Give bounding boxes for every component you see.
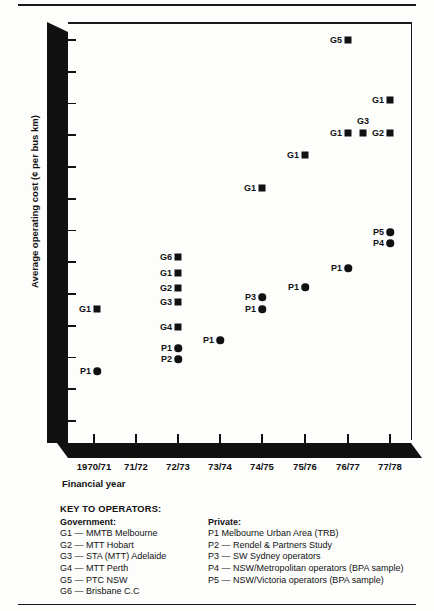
y-axis-tick-label: 120 — [0, 66, 66, 77]
legend-entry-government: G1 — MMTB Melbourne — [60, 528, 208, 540]
data-point-label: P1 — [245, 305, 256, 314]
data-point-label: P1 — [203, 336, 214, 345]
data-point-label: G1 — [330, 129, 342, 138]
data-point-label: G2 — [160, 284, 172, 293]
x-axis-tick-label: 75/76 — [293, 461, 317, 472]
data-point-label: P2 — [161, 355, 172, 364]
circle-marker-icon — [301, 283, 309, 291]
data-point-label: G5 — [330, 36, 342, 45]
legend-entry-government: G2 — MTT Hobart — [60, 540, 208, 552]
y-axis-tick-label: 90 — [0, 161, 66, 172]
circle-marker-icon — [258, 293, 266, 301]
square-marker-icon — [175, 270, 182, 277]
legend-heading-private: Private: — [208, 517, 430, 529]
square-marker-icon — [302, 152, 309, 159]
y-axis-tick-label: 130 — [0, 34, 66, 45]
circle-marker-icon — [344, 264, 352, 272]
legend-entry-government: G4 — MTT Perth — [60, 563, 208, 575]
data-point-label: P4 — [373, 239, 384, 248]
circle-marker-icon — [93, 367, 101, 375]
square-marker-icon — [175, 299, 182, 306]
square-marker-icon — [345, 130, 352, 137]
y-axis-tick-label: 100 — [0, 129, 66, 140]
plot-area — [68, 22, 412, 440]
square-marker-icon — [345, 37, 352, 44]
data-point-label: P5 — [373, 228, 384, 237]
bottom-rule — [18, 604, 416, 606]
y-axis-tick-label: 30 — [0, 352, 66, 363]
y-axis-tick-label: 20 — [0, 383, 66, 394]
data-point-label: P1 — [80, 367, 91, 376]
legend-entry-government: G5 — PTC NSW — [60, 575, 208, 587]
x-axis-title: Financial year — [62, 478, 125, 489]
square-marker-icon — [94, 306, 101, 313]
circle-marker-icon — [386, 239, 394, 247]
top-rule — [18, 4, 416, 6]
x-axis-tick — [261, 434, 263, 443]
legend-entry-government: G6 — Brisbane C.C — [60, 586, 208, 598]
square-marker-icon — [360, 130, 367, 137]
x-axis-tick — [177, 434, 179, 443]
data-point-label: G6 — [160, 253, 172, 262]
data-point-label: G1 — [372, 96, 384, 105]
circle-marker-icon — [174, 344, 182, 352]
x-axis-tick-label: 72/73 — [166, 461, 190, 472]
square-marker-icon — [175, 254, 182, 261]
legend-entry-private: P5 — NSW/Victoria operators (BPA sample) — [208, 575, 430, 587]
data-point-label: P1 — [331, 264, 342, 273]
legend-heading-government: Government: — [60, 517, 208, 529]
square-marker-icon — [175, 285, 182, 292]
x-axis-tick-label: 76/77 — [336, 461, 360, 472]
x-axis-tick — [304, 434, 306, 443]
x-axis-tick-label: 74/75 — [250, 461, 274, 472]
data-point-label: G4 — [160, 323, 172, 332]
y-axis-tick-label: 40 — [0, 320, 66, 331]
data-point-label: G1 — [244, 184, 256, 193]
circle-marker-icon — [258, 305, 266, 313]
x-axis-tick-label: 73/74 — [208, 461, 232, 472]
square-marker-icon — [387, 97, 394, 104]
y-axis-tick-label: 50 — [0, 288, 66, 299]
x-axis-tick — [93, 434, 95, 443]
legend-entry-private: P1 Melbourne Urban Area (TRB) — [208, 528, 430, 540]
data-point-label: P3 — [245, 293, 256, 302]
y-axis-tick-label: 10 — [0, 415, 66, 426]
data-point-label: P1 — [161, 344, 172, 353]
legend: KEY TO OPERATORS: Government: G1 — MMTB … — [60, 504, 430, 598]
legend-column-private: Private: P1 Melbourne Urban Area (TRB)P2… — [208, 517, 430, 598]
data-point-label: G1 — [160, 269, 172, 278]
x-axis-tick — [347, 434, 349, 443]
x-axis-tick-label: 71/72 — [124, 461, 148, 472]
x-axis-slab — [57, 443, 422, 458]
legend-column-government: Government: G1 — MMTB MelbourneG2 — MTT … — [60, 517, 208, 598]
x-axis-tick-label: 1970/71 — [77, 461, 111, 472]
y-axis-tick-label: 60 — [0, 256, 66, 267]
data-point-label: G3 — [357, 117, 369, 126]
y-axis-tick-label: 110 — [0, 98, 66, 109]
x-axis-tick — [135, 434, 137, 443]
circle-marker-icon — [216, 336, 224, 344]
plot-frame-top — [68, 22, 412, 24]
x-axis-tick-label: 77/78 — [378, 461, 402, 472]
square-marker-icon — [259, 185, 266, 192]
y-axis-tick-label: 80 — [0, 193, 66, 204]
plot-frame-right — [411, 22, 413, 440]
legend-entry-private: P4 — NSW/Metropolitan operators (BPA sam… — [208, 563, 430, 575]
legend-entry-private: P2 — Rendel & Partners Study — [208, 540, 430, 552]
legend-entry-private: P3 — SW Sydney operators — [208, 551, 430, 563]
circle-marker-icon — [174, 355, 182, 363]
data-point-label: G3 — [160, 298, 172, 307]
data-point-label: P1 — [288, 283, 299, 292]
legend-entry-government: G3 — STA (MTT) Adelaide — [60, 551, 208, 563]
data-point-label: G1 — [287, 151, 299, 160]
square-marker-icon — [175, 324, 182, 331]
square-marker-icon — [387, 130, 394, 137]
y-axis-tick-label: 70 — [0, 225, 66, 236]
x-axis-tick — [389, 434, 391, 443]
x-axis-tick — [219, 434, 221, 443]
data-point-label: G2 — [372, 129, 384, 138]
chart-page: Average operating cost (¢ per bus km) Fi… — [0, 0, 434, 611]
legend-title: KEY TO OPERATORS: — [60, 504, 430, 516]
data-point-label: G1 — [79, 305, 91, 314]
circle-marker-icon — [386, 228, 394, 236]
